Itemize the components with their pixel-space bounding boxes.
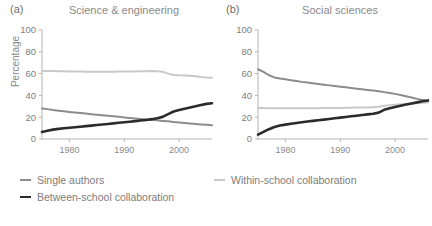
- series-line: [42, 71, 212, 78]
- y-tick-label: 40: [241, 90, 252, 101]
- panels-row: (a) Science & engineering Percentage 020…: [0, 0, 432, 164]
- series-line: [258, 100, 428, 134]
- legend-label-between-school: Between-school collaboration: [37, 191, 174, 203]
- legend-label-single-authors: Single authors: [37, 174, 104, 186]
- panel-science-engineering: (a) Science & engineering Percentage 020…: [0, 0, 216, 164]
- line-swatch-single-authors: [20, 179, 31, 181]
- legend-label-within-school: Within-school collaboration: [231, 174, 356, 186]
- y-tick-label: 0: [247, 133, 252, 144]
- legend-item-within-school: Within-school collaboration: [214, 174, 356, 186]
- y-tick-label: 100: [236, 24, 252, 35]
- y-tick-label: 60: [25, 68, 36, 79]
- x-tick-label: 2000: [169, 145, 189, 155]
- x-tick-label: 1990: [114, 145, 134, 155]
- plot-area-science-engineering: 020406080100198019902000: [0, 0, 216, 164]
- y-tick-label: 40: [25, 90, 36, 101]
- series-line: [258, 69, 428, 101]
- y-tick-label: 80: [25, 46, 36, 57]
- y-tick-label: 0: [31, 133, 36, 144]
- x-tick-label: 1980: [275, 145, 295, 155]
- x-tick-label: 1980: [59, 145, 79, 155]
- x-tick-label: 1990: [330, 145, 350, 155]
- line-swatch-within-school: [214, 179, 225, 181]
- legend: Single authors Within-school collaborati…: [8, 172, 424, 216]
- panel-social-sciences: (b) Social sciences 02040608010019801990…: [216, 0, 432, 164]
- x-tick-label: 2000: [385, 145, 405, 155]
- y-tick-label: 80: [241, 46, 252, 57]
- figure-container: (a) Science & engineering Percentage 020…: [0, 0, 432, 226]
- plot-area-social-sciences: 020406080100198019902000: [216, 0, 432, 164]
- y-tick-label: 100: [20, 24, 36, 35]
- y-tick-label: 20: [241, 112, 252, 123]
- y-tick-label: 60: [241, 68, 252, 79]
- y-tick-label: 20: [25, 112, 36, 123]
- line-swatch-between-school: [20, 196, 31, 198]
- legend-item-single-authors: Single authors: [20, 174, 104, 186]
- legend-item-between-school: Between-school collaboration: [20, 191, 174, 203]
